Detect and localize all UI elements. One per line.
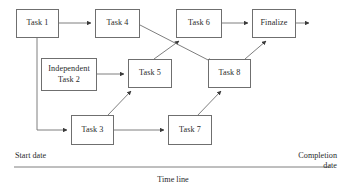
node-task7-label: Task 7	[177, 125, 203, 135]
node-finalize-label: Finalize	[258, 18, 289, 28]
edge-task7-task8	[197, 91, 221, 116]
completion-date-label: Completion date	[298, 151, 337, 171]
diagram-canvas: Task 1 Task 4 Task 6 Finalize Independen…	[0, 0, 346, 192]
start-date-label: Start date	[15, 151, 46, 161]
node-independent-task2[interactable]: Independent Task 2	[41, 58, 97, 91]
node-task8[interactable]: Task 8	[208, 59, 251, 88]
node-task1[interactable]: Task 1	[16, 9, 59, 38]
node-independent-task2-label: Independent Task 2	[46, 64, 92, 85]
node-task4[interactable]: Task 4	[95, 9, 140, 38]
node-task7[interactable]: Task 7	[168, 115, 212, 145]
node-task3-label: Task 3	[79, 125, 105, 135]
edge-task8-finalize	[245, 41, 266, 59]
node-task5[interactable]: Task 5	[128, 59, 172, 88]
edge-task3-task5	[108, 91, 131, 115]
node-task3[interactable]: Task 3	[71, 115, 114, 145]
node-task6[interactable]: Task 6	[176, 9, 222, 38]
node-task8-label: Task 8	[216, 68, 242, 78]
time-line-label: Time line	[0, 175, 346, 185]
node-task5-label: Task 5	[137, 68, 163, 78]
node-task6-label: Task 6	[186, 18, 212, 28]
edge-task5-task6	[154, 41, 179, 59]
node-task4-label: Task 4	[104, 18, 130, 28]
node-finalize[interactable]: Finalize	[252, 9, 296, 38]
node-task1-label: Task 1	[24, 18, 50, 28]
